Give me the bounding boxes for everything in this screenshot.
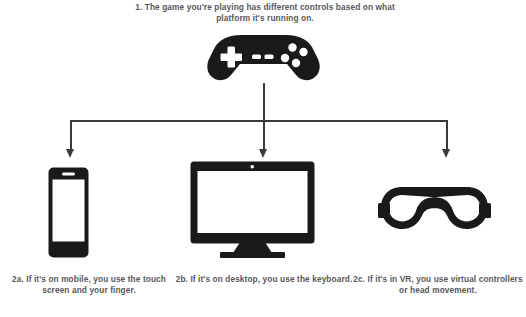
connector-drop-desktop xyxy=(263,120,265,151)
arrowhead-vr xyxy=(442,149,450,158)
connector-drop-vr xyxy=(446,120,448,151)
caption-vr: 2c. If it's in VR, you use virtual contr… xyxy=(350,274,526,296)
smartphone-icon xyxy=(48,167,89,258)
caption-desktop: 2b. If it's on desktop, you use the keyb… xyxy=(174,274,354,285)
connector-drop-mobile xyxy=(70,120,72,151)
connector-bus xyxy=(70,120,447,122)
vr-headset-icon xyxy=(378,186,491,240)
desktop-monitor-icon xyxy=(190,161,315,258)
top-caption: 1. The game you're playing has different… xyxy=(133,2,397,24)
gamepad-icon xyxy=(207,29,320,85)
connector-trunk xyxy=(263,83,265,121)
diagram-canvas: 1. The game you're playing has different… xyxy=(0,0,526,317)
caption-mobile: 2a. If it's on mobile, you use the touch… xyxy=(0,274,178,296)
arrowhead-mobile xyxy=(66,149,74,158)
arrowhead-desktop xyxy=(259,149,267,158)
